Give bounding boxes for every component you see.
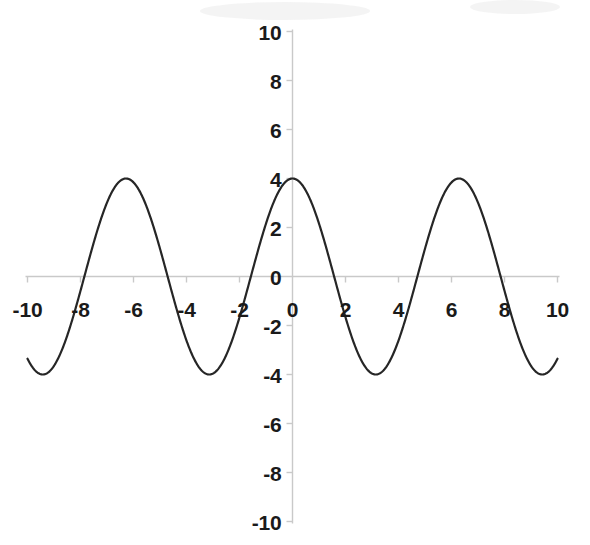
y-tick-label: -10 bbox=[252, 511, 282, 532]
y-tick-label: 4 bbox=[270, 168, 281, 189]
x-tick-label: 8 bbox=[499, 299, 510, 320]
x-tick-label: -8 bbox=[71, 299, 89, 320]
x-tick-label: -10 bbox=[13, 299, 43, 320]
x-tick-label: 0 bbox=[287, 299, 298, 320]
axis-lines bbox=[26, 30, 560, 524]
y-tick-label: 2 bbox=[270, 217, 281, 238]
y-tick-label: -4 bbox=[263, 364, 281, 385]
x-tick-label: -4 bbox=[177, 299, 195, 320]
y-tick-label: -8 bbox=[263, 462, 281, 483]
y-tick-label: 10 bbox=[259, 21, 282, 42]
y-tick-label: 0 bbox=[270, 266, 281, 287]
chart-canvas: 1086420-2-4-6-8-10 -10-8-6-4-20246810 bbox=[0, 0, 590, 545]
x-tick-label: -6 bbox=[124, 299, 142, 320]
x-tick-label: 2 bbox=[340, 299, 351, 320]
y-tick-label: 6 bbox=[270, 119, 281, 140]
x-tick-label: 10 bbox=[546, 299, 569, 320]
x-tick-label: 4 bbox=[393, 299, 404, 320]
x-tick-label: 6 bbox=[446, 299, 457, 320]
x-tick-label: -2 bbox=[230, 299, 248, 320]
y-tick-label: -2 bbox=[263, 315, 281, 336]
y-tick-label: 8 bbox=[270, 70, 281, 91]
y-tick-label: -6 bbox=[263, 413, 281, 434]
plot-area bbox=[0, 0, 590, 545]
